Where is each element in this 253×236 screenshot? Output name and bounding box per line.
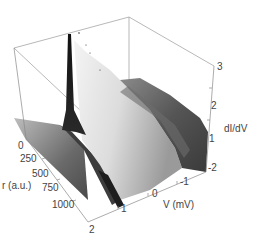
surface-plot xyxy=(0,0,253,236)
x-tick-2: 2 xyxy=(89,225,95,235)
x-tick-m1: -1 xyxy=(180,177,189,187)
y-tick-500: 500 xyxy=(32,169,49,179)
z-tick-1: 1 xyxy=(209,134,215,144)
y-tick-750: 750 xyxy=(42,183,59,193)
x-tick-1: 1 xyxy=(121,204,127,214)
y-axis-label: r (a.u.) xyxy=(2,181,31,191)
x-axis-label: V (mV) xyxy=(163,200,194,210)
x-tick-m2: -2 xyxy=(208,163,217,173)
z-axis-label: dI/dV xyxy=(224,124,247,134)
y-tick-250: 250 xyxy=(20,154,37,164)
z-tick-2: 2 xyxy=(211,101,217,111)
z-tick-3: 3 xyxy=(217,62,223,72)
y-tick-1000: 1000 xyxy=(52,200,74,210)
y-tick-0: 0 xyxy=(18,141,24,151)
x-tick-0: 0 xyxy=(152,189,158,199)
